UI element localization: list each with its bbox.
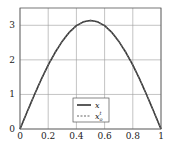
x-tick-label: 0.6 <box>97 131 112 141</box>
x-tick-label: 1 <box>158 131 164 141</box>
y-tick-label: 3 <box>9 20 15 30</box>
y-tick-label: 2 <box>9 55 15 65</box>
x-tick-label: 0.2 <box>41 131 55 141</box>
legend-label: x <box>95 101 100 110</box>
x-tick-label: 0.4 <box>69 131 84 141</box>
y-tick-label: 1 <box>9 89 15 99</box>
y-tick-label: 0 <box>9 124 15 134</box>
x-axis-ticks: 00.20.40.60.81 <box>17 131 164 141</box>
y-axis-ticks: 0123 <box>9 20 15 134</box>
legend-box <box>73 98 109 122</box>
legend: xxto <box>73 98 109 122</box>
legend-label: xto <box>95 110 103 122</box>
x-tick-label: 0 <box>17 131 23 141</box>
x-tick-label: 0.8 <box>126 131 141 141</box>
line-chart: 0123 00.20.40.60.81 xxto <box>0 0 169 146</box>
